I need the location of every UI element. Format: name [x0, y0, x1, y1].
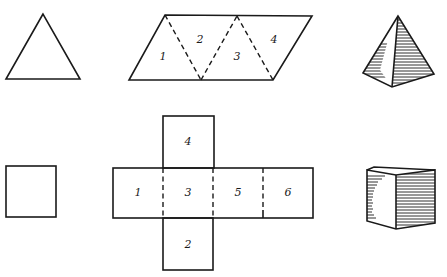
face-label: 2	[196, 33, 204, 46]
tetrahedron-net: 1 2 3 4	[129, 15, 312, 80]
face-label: 2	[184, 238, 192, 251]
fold-line	[165, 15, 201, 80]
face-label: 3	[185, 186, 192, 199]
face-label: 1	[135, 186, 142, 199]
cube-3d	[367, 167, 440, 229]
face-label: 1	[160, 50, 167, 63]
geometry-nets-diagram: 1 2 3 4	[0, 0, 447, 277]
net-outline	[129, 15, 312, 80]
equilateral-triangle	[6, 14, 80, 79]
face-label: 5	[235, 186, 242, 199]
square	[6, 166, 56, 217]
fold-line	[201, 16, 237, 80]
face-label: 3	[234, 50, 241, 63]
pyramid-3d	[360, 16, 440, 87]
fold-line	[237, 16, 273, 80]
cube-net: 4 1 3 5 6 2	[113, 116, 313, 270]
face-label: 4	[270, 33, 278, 46]
face-label: 4	[184, 135, 192, 148]
face-label: 6	[285, 186, 292, 199]
